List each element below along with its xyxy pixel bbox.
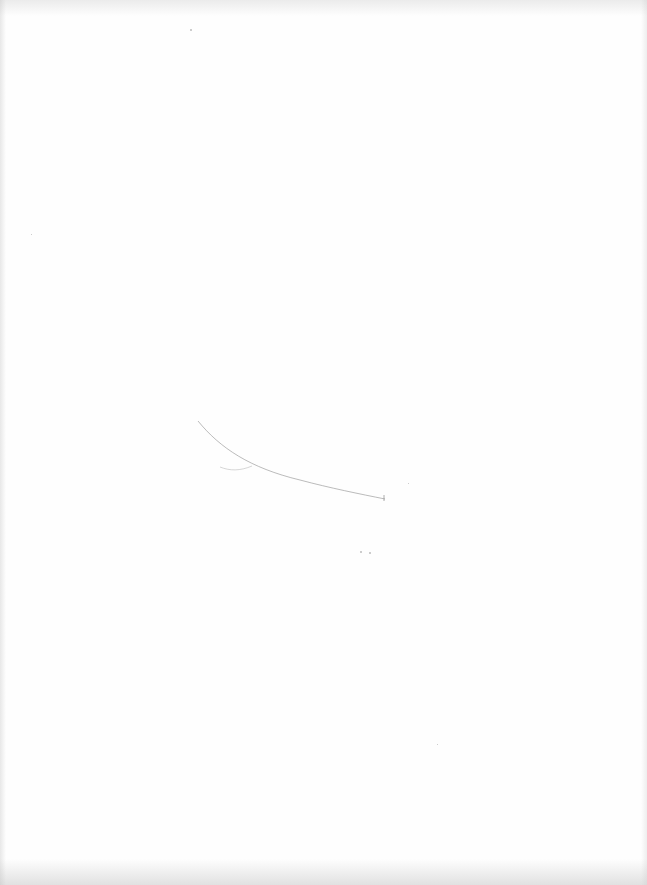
speck [408,483,409,484]
pencil-stroke-main [198,421,385,499]
pencil-marks [0,0,647,885]
pencil-stroke-hook [220,466,252,470]
speck [360,551,362,553]
speck [31,234,32,235]
speck [437,744,438,745]
speck [369,552,371,554]
scanned-page [0,0,647,885]
speck [190,29,192,31]
